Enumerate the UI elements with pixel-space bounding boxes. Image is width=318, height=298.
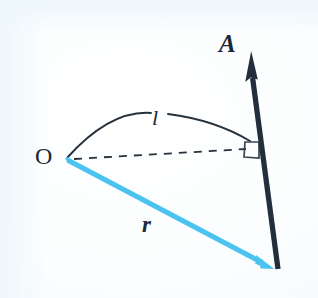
arc-l: [67, 113, 250, 158]
vector-a-label: A: [219, 31, 236, 56]
origin-label: O: [35, 144, 52, 168]
dashed-chord: [74, 149, 246, 159]
figure-canvas: A O l r: [0, 0, 318, 298]
radius-label: r: [142, 213, 151, 236]
origin-point: [66, 157, 70, 161]
vector-a: [245, 51, 278, 269]
vector-r: [68, 160, 275, 269]
arc-length-label: l: [152, 107, 158, 129]
right-angle-marker: [244, 142, 259, 158]
